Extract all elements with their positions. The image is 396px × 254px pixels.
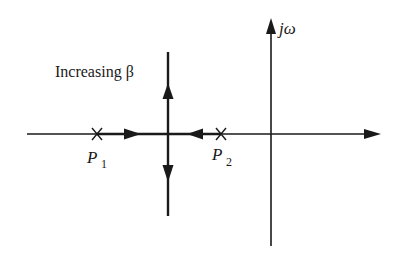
root-locus-diagram: jω Increasing β P 1 P 2: [0, 0, 396, 254]
imaginary-axis: [266, 18, 276, 246]
down-arrow-icon: [163, 165, 174, 182]
real-axis-arrow-icon: [364, 129, 381, 139]
left-arrow-icon: [187, 129, 203, 140]
pole-p1-label: P: [86, 148, 97, 167]
pole-p2-label: P: [211, 145, 222, 164]
increasing-beta-label: Increasing β: [55, 63, 134, 81]
right-arrow-icon: [124, 129, 141, 140]
locus-segment-p1-to-breakaway: [97, 129, 168, 140]
locus-segment-p2-to-breakaway: [168, 129, 221, 140]
pole-p2-subscript: 2: [226, 155, 232, 169]
imaginary-axis-arrow-icon: [266, 18, 276, 34]
pole-p1-subscript: 1: [101, 157, 107, 171]
up-arrow-icon: [163, 83, 174, 99]
imaginary-axis-label: jω: [277, 19, 296, 38]
